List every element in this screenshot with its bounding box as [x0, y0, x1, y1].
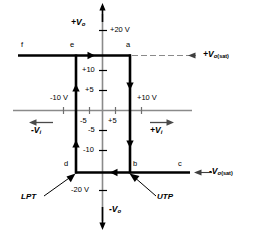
y-tick-label-neg20: -20 V — [71, 186, 89, 194]
negative-saturation-arrowhead-icon — [194, 170, 202, 176]
curve-arrow-top-right-icon — [88, 52, 96, 59]
y-tick-label-neg10: -10 — [83, 146, 94, 154]
y-axis-positive-label: +Vo — [71, 18, 85, 27]
curve-point-label-b: b — [133, 160, 137, 168]
negative-saturation-label: -Vo(sat) — [209, 167, 233, 177]
positive-saturation-label: +Vo(sat) — [203, 50, 229, 60]
chart-canvas — [0, 0, 256, 235]
utp-annotation-label: UTP — [157, 193, 173, 201]
curve-arrow-left-lower-icon — [72, 140, 79, 148]
curve-arrow-right-lower-icon — [126, 141, 133, 149]
x-axis-negative-label: -Vi — [31, 126, 41, 135]
x-axis-positive-label: +Vi — [150, 126, 162, 135]
y-axis-up-arrow-icon — [99, 3, 105, 22]
curve-point-label-c: c — [178, 160, 182, 168]
curve-arrow-bottom-left-icon — [110, 169, 118, 176]
curve-point-label-d: d — [64, 160, 68, 168]
y-tick-label-10: +10 — [82, 66, 95, 74]
y-tick-label-5: +5 — [85, 86, 94, 94]
x-tick-label-neg5: -5 — [80, 117, 87, 125]
y-axis-down-arrow-icon — [99, 207, 105, 230]
x-tick-label-neg10: -10 V — [50, 94, 68, 102]
utp-leader-line — [130, 174, 157, 197]
positive-saturation-arrowhead-icon — [188, 53, 196, 59]
curve-point-label-e: e — [70, 41, 74, 49]
lpt-annotation-label: LPT — [21, 193, 36, 201]
curve-arrow-right-upper-icon — [126, 83, 133, 91]
y-tick-label-neg5: -5 — [88, 126, 95, 134]
x-tick-label-pos5: +5 — [108, 117, 117, 125]
curve-point-label-a: a — [126, 41, 130, 49]
curve-arrow-left-upper-icon — [72, 84, 79, 92]
y-tick-label-20: +20 V — [110, 26, 130, 34]
x-tick-label-pos10: +10 V — [137, 94, 157, 102]
hysteresis-transfer-characteristic-figure: +Vo -Vo -Vi +Vi +20 V +10 +5 -5 -10 -20 … — [0, 0, 256, 235]
y-axis-negative-label: -Vo — [109, 205, 121, 214]
curve-point-label-f: f — [21, 41, 23, 49]
